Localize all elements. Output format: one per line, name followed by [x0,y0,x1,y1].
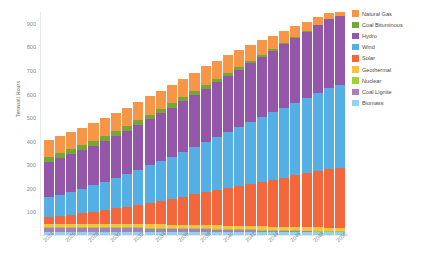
bar-segment[interactable] [111,136,121,178]
legend-item[interactable]: Coal Lignite [352,86,440,97]
bar-stack[interactable] [290,12,300,235]
bar-segment[interactable] [268,51,278,113]
bar-segment[interactable] [290,38,300,103]
bar-segment[interactable] [178,152,188,197]
bar-segment[interactable] [212,190,222,225]
bar-stack[interactable] [122,12,132,235]
bar-segment[interactable] [335,85,345,168]
bar-segment[interactable] [77,213,87,224]
bar-stack[interactable] [212,12,222,235]
bar-segment[interactable] [55,158,65,194]
bar-segment[interactable] [279,44,289,107]
bar-segment[interactable] [335,16,345,84]
bar-segment[interactable] [145,165,155,202]
bar-segment[interactable] [189,147,199,194]
bar-stack[interactable] [88,12,98,235]
legend-item[interactable]: Biomass [352,98,440,109]
bar-stack[interactable] [66,12,76,235]
bar-stack[interactable] [268,12,278,235]
bar-segment[interactable] [66,192,76,215]
bar-segment[interactable] [313,171,323,227]
bar-segment[interactable] [268,36,278,49]
legend-item[interactable]: Natural Gas [352,8,440,19]
bar-segment[interactable] [133,170,143,205]
bar-segment[interactable] [257,117,267,181]
bar-segment[interactable] [100,118,110,136]
bar-segment[interactable] [201,192,211,225]
bar-stack[interactable] [167,12,177,235]
bar-segment[interactable] [178,101,188,151]
bar-segment[interactable] [156,201,166,225]
bar-segment[interactable] [223,76,233,132]
bar-segment[interactable] [324,19,334,87]
bar-segment[interactable] [122,232,132,235]
bar-segment[interactable] [189,95,199,147]
bar-segment[interactable] [234,127,244,186]
bar-segment[interactable] [279,232,289,235]
bar-segment[interactable] [111,208,121,224]
bar-segment[interactable] [279,31,289,43]
bar-stack[interactable] [335,12,345,235]
bar-segment[interactable] [268,180,278,227]
bar-segment[interactable] [290,103,300,176]
bar-segment[interactable] [324,169,334,228]
bar-stack[interactable] [257,12,267,235]
bar-stack[interactable] [77,12,87,235]
bar-stack[interactable] [189,12,199,235]
bar-segment[interactable] [100,182,110,210]
bar-segment[interactable] [223,188,233,225]
bar-segment[interactable] [313,25,323,92]
bar-segment[interactable] [167,108,177,157]
bar-segment[interactable] [234,50,244,67]
bar-segment[interactable] [100,210,110,224]
bar-stack[interactable] [100,12,110,235]
bar-stack[interactable] [111,12,121,235]
bar-segment[interactable] [88,212,98,224]
bar-segment[interactable] [55,195,65,216]
bar-stack[interactable] [44,12,54,235]
bar-segment[interactable] [100,141,110,182]
bar-segment[interactable] [167,85,177,103]
bar-stack[interactable] [279,12,289,235]
bar-segment[interactable] [212,232,222,235]
bar-stack[interactable] [178,12,188,235]
bar-segment[interactable] [145,119,155,165]
bar-segment[interactable] [201,89,211,142]
bar-segment[interactable] [66,154,76,191]
bar-segment[interactable] [133,205,143,225]
bar-segment[interactable] [189,194,199,224]
bar-segment[interactable] [290,26,300,36]
bar-segment[interactable] [245,45,255,61]
bar-segment[interactable] [66,215,76,224]
bar-segment[interactable] [212,61,222,79]
bar-stack[interactable] [145,12,155,235]
bar-segment[interactable] [145,96,155,114]
bar-segment[interactable] [302,32,312,98]
bar-segment[interactable] [77,189,87,214]
bar-segment[interactable] [189,73,199,92]
bar-segment[interactable] [257,232,267,235]
bar-segment[interactable] [44,162,54,197]
bar-segment[interactable] [313,93,323,172]
bar-stack[interactable] [234,12,244,235]
bar-segment[interactable] [167,199,177,225]
bar-segment[interactable] [257,40,267,55]
bar-segment[interactable] [212,137,222,190]
bar-segment[interactable] [223,132,233,188]
legend-item[interactable]: Nuclear [352,75,440,86]
bar-segment[interactable] [122,131,132,174]
bar-segment[interactable] [44,140,54,157]
bar-segment[interactable] [212,82,222,137]
bar-segment[interactable] [167,232,177,235]
bar-segment[interactable] [189,232,199,235]
bar-segment[interactable] [77,150,87,188]
bar-segment[interactable] [44,197,54,217]
bar-segment[interactable] [133,125,143,170]
bar-segment[interactable] [100,232,110,235]
bar-segment[interactable] [178,197,188,225]
bar-stack[interactable] [201,12,211,235]
bar-segment[interactable] [77,232,87,235]
bar-segment[interactable] [111,113,121,131]
bar-segment[interactable] [156,161,166,201]
bar-segment[interactable] [145,232,155,235]
